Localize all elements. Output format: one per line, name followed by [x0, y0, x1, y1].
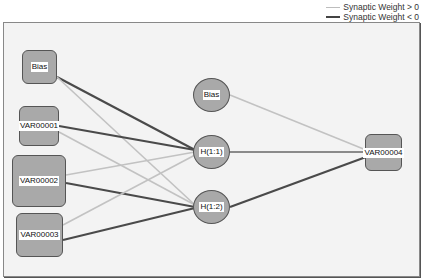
node-label: Bias [203, 90, 221, 100]
node-label: VAR00001 [19, 121, 59, 131]
edge-var2-to-h11 [66, 152, 195, 175]
node-label: Bias [31, 62, 49, 72]
node-hidden-bias: Bias [193, 78, 230, 112]
node-label: VAR00003 [19, 230, 59, 240]
edge-var3-to-h11 [63, 155, 195, 225]
node-var2: VAR00002 [12, 155, 66, 207]
edge-var3-to-h12 [63, 208, 195, 240]
edge-input_bias-to-h11 [57, 77, 195, 150]
edge-h12-to-out [230, 157, 366, 207]
node-label: VAR00002 [19, 176, 59, 186]
node-var1: VAR00001 [19, 106, 59, 146]
node-h11: H(1:1) [193, 135, 230, 169]
node-input-bias: Bias [22, 50, 57, 84]
node-label: H(1:1) [199, 147, 223, 157]
node-var3: VAR00003 [16, 213, 63, 257]
node-label: H(1:2) [199, 202, 223, 212]
node-out: VAR00004 [365, 134, 402, 171]
edge-hidden_bias-to-out [230, 95, 366, 150]
node-h12: H(1:2) [193, 190, 230, 224]
node-label: VAR00004 [363, 148, 403, 158]
